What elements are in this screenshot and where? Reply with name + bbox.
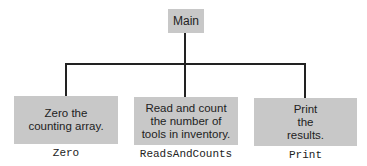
print-module-description: Print the results. (258, 103, 353, 142)
zero-module-name: Zero (14, 147, 118, 159)
main-module-label: Main (173, 15, 199, 28)
main-module-box: Main (168, 9, 204, 33)
readsandcounts-module-name: ReadsAndCounts (126, 148, 246, 160)
readsandcounts-module-description: Read and count the number of tools in in… (138, 102, 234, 141)
print-module-box: Print the results. (254, 98, 357, 146)
zero-module-description: Zero the counting array. (18, 107, 114, 133)
connector-middle-vertical (184, 63, 186, 97)
connector-left-vertical (65, 63, 67, 96)
zero-module-box: Zero the counting array. (14, 96, 118, 144)
connector-root-vertical (184, 33, 186, 64)
connector-right-vertical (304, 63, 306, 98)
readsandcounts-module-box: Read and count the number of tools in in… (134, 97, 238, 145)
print-module-name: Print (254, 149, 357, 161)
